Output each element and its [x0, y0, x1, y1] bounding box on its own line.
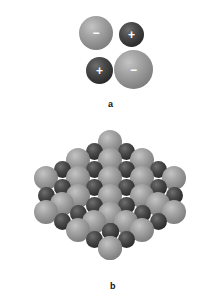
panel-b-crystal-lattice [0, 0, 216, 302]
lattice-anion [98, 236, 122, 260]
ionic-crystal-figure: −++− a b [0, 0, 216, 302]
panel-b-label: b [110, 281, 116, 291]
